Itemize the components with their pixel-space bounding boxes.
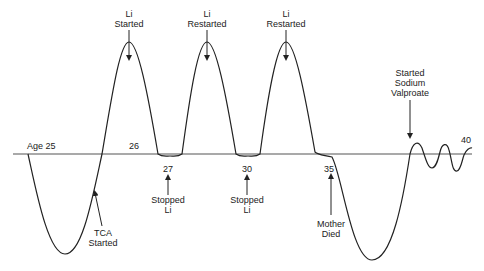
li-restarted-label-2: Li Restarted	[266, 9, 305, 29]
age-26-label: 26	[129, 141, 139, 151]
li-started-label: Li Started	[114, 9, 143, 29]
age-30-label: 30	[242, 164, 252, 174]
tca-started-arrow	[95, 193, 102, 226]
age-27-label: 27	[163, 164, 173, 174]
mother-died-label: Mother Died	[317, 219, 345, 239]
age-40-label: 40	[461, 135, 471, 145]
li-restarted-label-1: Li Restarted	[187, 9, 226, 29]
mood-curve-svg	[0, 0, 484, 271]
stopped-li-label-2: Stopped Li	[230, 195, 264, 215]
mood-chart: Age 25 26 40 27 30 35 Li Started Li Rest…	[0, 0, 484, 271]
age-35-label: 35	[324, 164, 334, 174]
tca-started-label: TCA Started	[88, 228, 117, 248]
age-25-label: Age 25	[27, 141, 56, 151]
valproate-label: Started Sodium Valproate	[391, 68, 429, 98]
stopped-li-label-1: Stopped Li	[151, 195, 185, 215]
